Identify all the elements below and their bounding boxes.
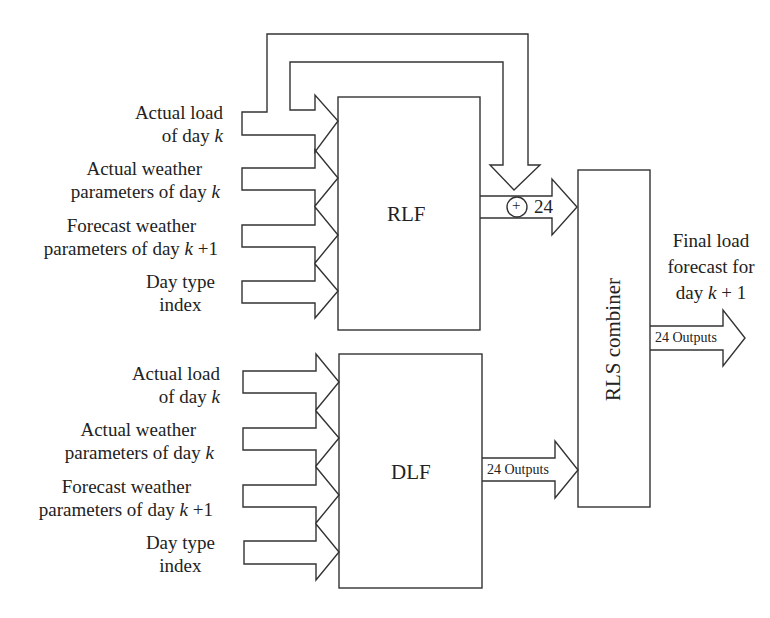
rlf-output-arrow — [480, 179, 577, 235]
dlf-input-arrow-actual-weather — [243, 411, 339, 466]
dlf-block-label: DLF — [391, 460, 431, 485]
combiner-output-label: 24 Outputs — [655, 330, 717, 346]
dlf-input-arrow-actual-load — [243, 354, 339, 410]
dlf-input-label-actual-weather: Actual weather parameters of day k — [65, 418, 214, 464]
rlf-input-arrow-actual-weather — [242, 150, 338, 206]
dlf-input-label-actual-load: Actual load of day k — [132, 362, 220, 408]
rlf-input-label-day-type: Day type index — [146, 270, 215, 316]
dlf-input-label-day-type: Day type index — [146, 531, 215, 577]
rlf-output-label: 24 — [534, 196, 553, 218]
rlf-input-arrow-forecast-weather — [242, 207, 338, 263]
rlf-input-arrow-day-type — [242, 264, 338, 318]
rlf-block-label: RLF — [387, 202, 426, 227]
rlf-input-label-actual-weather: Actual weather parameters of day k — [71, 157, 220, 203]
dlf-input-label-forecast-weather: Forecast weather parameters of day k +1 — [39, 475, 213, 521]
rlf-input-label-forecast-weather: Forecast weather parameters of day k +1 — [44, 214, 218, 260]
summing-plus-symbol: + — [512, 197, 520, 214]
dlf-output-label: 24 Outputs — [487, 462, 549, 478]
final-output-line1: Final load — [655, 228, 767, 254]
dlf-input-arrow-forecast-weather — [243, 467, 339, 523]
final-output-caption: Final load forecast for day k + 1 — [655, 228, 767, 306]
block-diagram-canvas — [0, 0, 770, 618]
rlf-input-arrow-actual-load — [242, 34, 540, 190]
final-output-line2: forecast for — [655, 254, 767, 280]
dlf-input-arrow-day-type — [244, 524, 339, 580]
rlf-input-label-actual-load: Actual load of day k — [135, 101, 223, 147]
final-output-line3: day k + 1 — [655, 280, 767, 306]
combiner-block-label: RLS combiner — [601, 275, 626, 405]
